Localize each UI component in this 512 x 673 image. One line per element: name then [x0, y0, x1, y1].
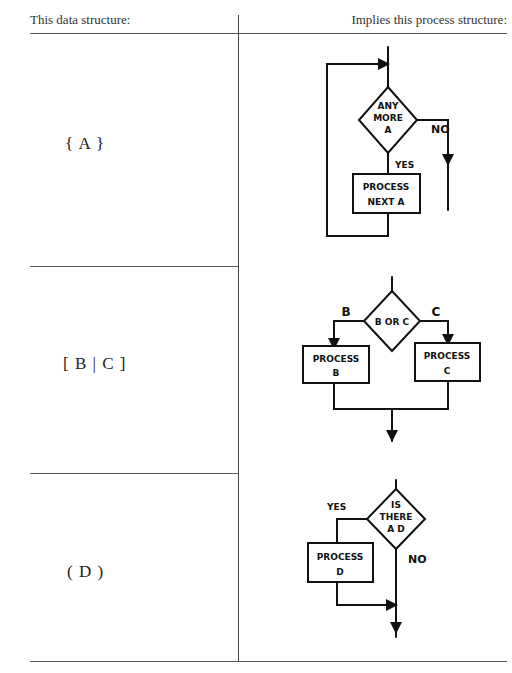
process-box-label: C [444, 366, 451, 376]
process-box-label: PROCESS [317, 552, 364, 562]
process-box-label: PROCESS [424, 351, 471, 361]
decision-label-line: A [385, 125, 392, 135]
decision-label-line: A D [387, 524, 405, 534]
process-box-label: PROCESS [313, 354, 360, 364]
process-box-label: PROCESS [363, 182, 410, 192]
flowchart-iteration [327, 47, 448, 236]
branch-label-b: B [341, 305, 350, 319]
decision-label-line: MORE [373, 113, 403, 123]
decision-label-line: ANY [377, 101, 398, 111]
process-box-label: NEXT A [368, 197, 405, 207]
decision-label: B OR C [375, 317, 410, 327]
process-flowcharts: ANY MORE A NO YES PROCESS NEXT A B OR C … [0, 0, 512, 673]
no-label: NO [408, 553, 427, 566]
process-box-label: D [336, 567, 343, 577]
branch-label-c: C [432, 305, 441, 319]
decision-label-line: THERE [380, 512, 413, 522]
no-label: NO [431, 123, 450, 136]
yes-label: YES [326, 502, 346, 512]
yes-label: YES [394, 160, 414, 170]
decision-label-line: IS [391, 500, 401, 510]
process-box-label: B [333, 368, 340, 378]
